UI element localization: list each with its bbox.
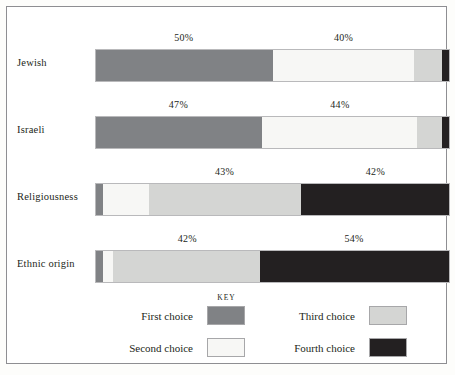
bar-value-label: 42%	[178, 233, 197, 244]
bar-value-label: 43%	[215, 166, 234, 177]
row-label: Ethnic origin	[17, 258, 93, 270]
bar-value-label: 42%	[366, 166, 385, 177]
stacked-bar	[95, 183, 450, 216]
legend-item-fourth-choice: Fourth choice	[279, 338, 407, 357]
legend-label: Third choice	[299, 310, 355, 322]
legend-swatch-second-choice	[207, 338, 245, 357]
chart-row: Ethnic origin42%54%	[7, 232, 446, 286]
stacked-bar	[95, 49, 450, 82]
row-label: Religiousness	[17, 191, 93, 203]
bar-segment	[301, 184, 449, 215]
bar-segment	[417, 117, 442, 148]
bar-segment	[442, 117, 449, 148]
chart-frame: Jewish50%40%Israeli47%44%Religiousness43…	[6, 6, 447, 364]
row-label: Israeli	[17, 124, 93, 136]
legend-swatch-first-choice	[207, 306, 245, 325]
bar-segment	[96, 184, 103, 215]
bar-segment	[262, 117, 417, 148]
key-title: KEY	[7, 293, 446, 302]
legend-swatch-third-choice	[369, 306, 407, 325]
chart-key: KEY First choice Second choice Third cho…	[7, 293, 446, 373]
legend-item-third-choice: Third choice	[279, 306, 407, 325]
bar-value-label: 44%	[330, 99, 349, 110]
bar-segment	[96, 117, 262, 148]
bar-segment	[260, 251, 449, 282]
row-label: Jewish	[17, 57, 93, 69]
chart-row: Religiousness43%42%	[7, 165, 446, 219]
legend-item-second-choice: Second choice	[117, 338, 245, 357]
legend-label: Second choice	[129, 342, 193, 354]
bar-segment	[103, 251, 113, 282]
legend-item-first-choice: First choice	[117, 306, 245, 325]
chart-row: Israeli47%44%	[7, 98, 446, 152]
legend-swatch-fourth-choice	[369, 338, 407, 357]
bar-value-label: 47%	[169, 99, 188, 110]
bar-segment	[414, 50, 442, 81]
bar-segment	[149, 184, 301, 215]
stacked-bar	[95, 250, 450, 283]
bar-segment	[96, 251, 103, 282]
chart-figure: Jewish50%40%Israeli47%44%Religiousness43…	[0, 0, 455, 375]
bar-value-label: 54%	[345, 233, 364, 244]
bar-segment	[113, 251, 260, 282]
legend-label: First choice	[141, 310, 193, 322]
chart-row: Jewish50%40%	[7, 31, 446, 85]
bar-value-label: 50%	[174, 32, 193, 43]
bar-segment	[103, 184, 149, 215]
bar-segment	[273, 50, 414, 81]
bar-value-label: 40%	[334, 32, 353, 43]
bar-segment	[442, 50, 449, 81]
stacked-bar	[95, 116, 450, 149]
legend-label: Fourth choice	[294, 342, 355, 354]
bar-segment	[96, 50, 273, 81]
